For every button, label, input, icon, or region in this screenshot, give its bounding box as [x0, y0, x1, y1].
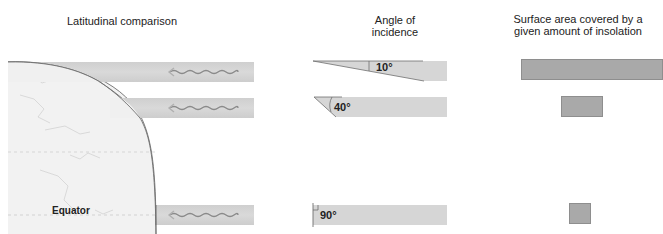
angle-label-10: 10° [376, 61, 393, 73]
angle-label-40: 40° [334, 101, 351, 113]
wavy-arrow-icon [169, 211, 238, 219]
wavy-arrow-icon [169, 68, 238, 76]
surface-area-90 [569, 203, 591, 224]
wavy-arrow-icon [169, 104, 238, 112]
surface-area-10 [521, 59, 663, 80]
angle-label-90: 90° [320, 209, 337, 221]
equator-label: Equator [52, 205, 90, 216]
surface-area-40 [561, 96, 603, 117]
